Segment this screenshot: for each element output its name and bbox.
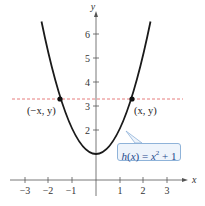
point-right — [129, 96, 134, 101]
y-tick-label: 4 — [85, 77, 90, 88]
x-tick-label: 1 — [118, 185, 123, 196]
fn-arg: x — [131, 150, 136, 162]
x-tick-label: −1 — [66, 185, 77, 196]
point-right-label: (x, y) — [134, 105, 157, 117]
y-tick-label: 5 — [85, 53, 90, 64]
x-axis-arrow-icon — [182, 178, 188, 182]
x-tick-label: −3 — [20, 185, 31, 196]
y-axis-label: y — [90, 1, 96, 12]
x-tick-label: 3 — [165, 185, 170, 196]
x-tick-label: −2 — [43, 185, 54, 196]
chart: −3 −2 −1 1 2 3 2 3 4 5 6 x y (−x, y) (x,… — [0, 0, 205, 206]
y-tick-label: 6 — [85, 29, 90, 40]
y-tick-label: 3 — [85, 101, 90, 112]
point-left-label: (−x, y) — [27, 105, 56, 117]
point-left — [57, 96, 62, 101]
fn-name: h — [121, 150, 127, 162]
x-axis-label: x — [191, 174, 197, 185]
callout-pointer — [126, 131, 142, 143]
x-tick-label: 2 — [141, 185, 146, 196]
y-tick-label: 2 — [85, 125, 90, 136]
fn-const: + 1 — [159, 150, 176, 162]
function-label: h(x) = x2 + 1 — [117, 143, 181, 161]
